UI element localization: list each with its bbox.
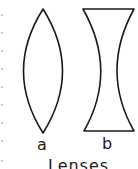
biconvex-lens-a — [24, 9, 63, 133]
figure-caption: Lenses — [48, 158, 109, 169]
lenses-diagram — [0, 0, 138, 169]
biconcave-lens-b — [83, 9, 134, 131]
lens-a-label: a — [37, 137, 47, 153]
lens-b-label: b — [102, 136, 112, 152]
